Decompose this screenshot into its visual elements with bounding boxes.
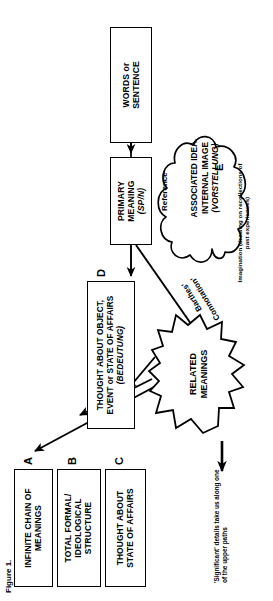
annotation-reference: Reference (160, 172, 170, 211)
box-d-line-2: EVENT or STATE OF AFFAIRS (106, 286, 116, 424)
box-a-tag: A (22, 457, 34, 465)
box-b-line-3: STRUCTURE (84, 474, 94, 582)
starburst-related-meanings[interactable]: RELATED MEANINGS (150, 315, 254, 433)
box-a-line-2: MEANINGS (34, 474, 44, 582)
box-words-line-1: WORDS or (121, 32, 131, 138)
box-d-line-1: THOUGHT ABOUT OBJECT, (96, 286, 106, 424)
cloud-german-term: (VORSTELLUNG) (210, 85, 221, 271)
box-words-or-sentence[interactable]: WORDS or SENTENCE (110, 27, 152, 143)
box-b-tag: B (66, 457, 78, 465)
box-words-line-2: SENTENCE (131, 32, 141, 138)
burst-line-1: RELATED (188, 315, 199, 433)
box-c-line-2: STATE OF AFFAIRS (126, 474, 136, 582)
box-a-line-1: INFINITE CHAIN OF (24, 474, 34, 582)
figure-canvas: Figure 1. (0, 0, 273, 601)
box-thought-about-state-of-affairs[interactable]: THOUGHT ABOUT STATE OF AFFAIRS (105, 469, 146, 587)
box-total-formal-ideological-structure[interactable]: TOTAL FORMAL/ IDEOLOGICAL STRUCTURE (57, 469, 101, 587)
box-c-line-1: THOUGHT ABOUT (116, 474, 126, 582)
cloud-line-2: INTERNAL IMAGE (200, 85, 211, 271)
annotation-significant-details: 'Significant' details take us along one … (213, 463, 228, 583)
burst-line-2: MEANINGS (199, 315, 210, 433)
box-primary-line-1: PRIMARY (116, 162, 126, 240)
box-thought-about-object-event-bedeutung[interactable]: THOUGHT ABOUT OBJECT, EVENT or STATE OF … (87, 281, 135, 429)
box-d-tag: D (95, 269, 107, 277)
box-infinite-chain-of-meanings[interactable]: INFINITE CHAIN OF MEANINGS (14, 469, 53, 587)
box-primary-abbrev: (SP/N) (136, 162, 146, 240)
cloud-line-1: ASSOCIATED IDEA, (189, 85, 200, 271)
box-primary-meaning[interactable]: PRIMARY MEANING (SP/N) (110, 157, 152, 245)
box-d-german-term: (BEDEUTUNG) (116, 286, 126, 424)
annotation-imagination: Imagination (drawing on recollections of… (236, 163, 251, 283)
cloud-e-tag: E (213, 164, 225, 171)
box-c-tag: C (113, 457, 125, 465)
box-primary-line-2: MEANING (126, 162, 136, 240)
